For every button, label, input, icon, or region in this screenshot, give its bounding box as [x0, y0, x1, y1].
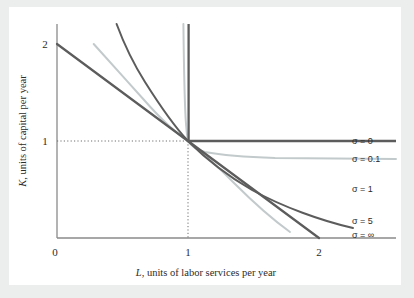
isoquant-figure: 2 1 0 1 2 L, units of labor services per…: [0, 0, 414, 298]
curve-sigma-5: [94, 44, 290, 232]
y-tick-label-1: 1: [42, 135, 48, 147]
x-axis-title-rest: , units of labor services per year: [142, 267, 277, 278]
x-tick-label-0: 0: [52, 246, 58, 258]
legend-sigma-0: σ = 0: [352, 136, 373, 146]
y-axis-title-rest: , units of capital per year: [17, 75, 28, 180]
legend-sigma-1: σ = 1: [352, 184, 373, 194]
legend-sigma-5: σ = 5: [352, 216, 373, 226]
curve-sigma-1: [117, 24, 353, 228]
axis-group: [57, 24, 396, 238]
isoquant-chart: 2 1 0 1 2 L, units of labor services per…: [0, 0, 414, 298]
y-axis-title: K, units of capital per year: [17, 75, 28, 188]
legend-sigma-infinity: σ = ∞: [352, 230, 374, 240]
x-tick-label-1: 1: [185, 246, 191, 258]
curve-sigma-0: [189, 24, 396, 141]
guide-lines-group: [57, 141, 188, 238]
x-tick-label-2: 2: [316, 246, 322, 258]
y-tick-label-2: 2: [42, 38, 48, 50]
x-axis-title: L, units of labor services per year: [135, 267, 277, 278]
legend-sigma-0.1: σ = 0.1: [352, 154, 380, 164]
